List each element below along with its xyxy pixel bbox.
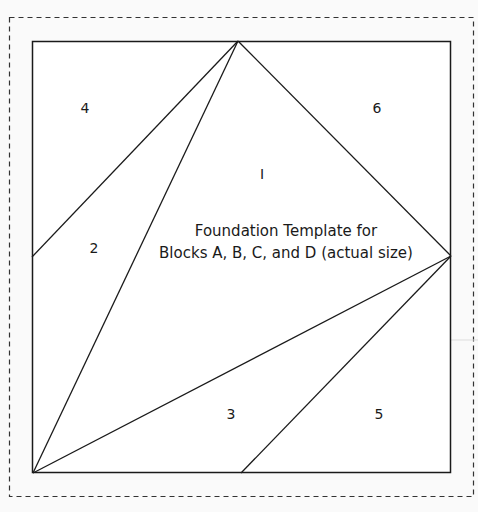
foundation-template-diagram: 4 6 I 2 3 5 Foundation Template for Bloc… <box>0 0 478 512</box>
piece-label-4: 4 <box>81 100 90 116</box>
piece-label-5: 5 <box>375 406 384 422</box>
template-title-line-2: Blocks A, B, C, and D (actual size) <box>159 244 413 262</box>
piece-label-2: 2 <box>90 240 99 256</box>
template-title-line-1: Foundation Template for <box>195 222 378 240</box>
piece-label-3: 3 <box>227 406 236 422</box>
piece-label-6: 6 <box>373 100 382 116</box>
piece-label-1: I <box>260 166 264 182</box>
